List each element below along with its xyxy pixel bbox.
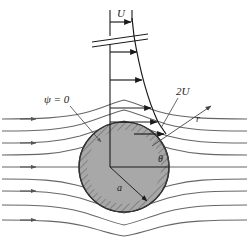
axis-break-icon xyxy=(92,34,148,47)
label-radius: a xyxy=(117,182,122,193)
label-max-velocity: 2U xyxy=(176,85,191,97)
leader-psi xyxy=(70,106,101,142)
streamline xyxy=(2,220,247,236)
label-radial-coordinate: r xyxy=(196,113,200,124)
streamline xyxy=(2,100,247,119)
label-freestream-velocity: U xyxy=(117,7,126,19)
label-stream-function: ψ = 0 xyxy=(44,93,70,105)
label-angle-theta: θ xyxy=(158,153,163,164)
figure-canvas: U 2U ψ = 0 r θ a xyxy=(0,0,249,248)
figure-potential-flow-sphere: U 2U ψ = 0 r θ a xyxy=(0,0,249,248)
